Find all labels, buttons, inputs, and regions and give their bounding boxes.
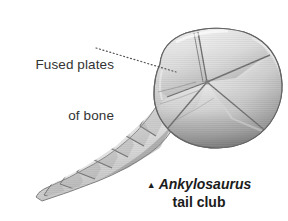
annotation-fused-plates: Fused plates of bone bbox=[6, 22, 114, 158]
annotation-line-2: of bone bbox=[6, 107, 114, 124]
figure-root: Fused plates of bone ▲Ankylosaurus tail … bbox=[0, 0, 288, 221]
caption-line-1: ▲Ankylosaurus bbox=[124, 176, 274, 194]
annotation-line-1: Fused plates bbox=[6, 56, 114, 73]
caption-line-2: tail club bbox=[124, 194, 274, 212]
triangle-marker-icon: ▲ bbox=[147, 180, 156, 190]
club-mass bbox=[144, 20, 288, 162]
caption-genus-name: Ankylosaurus bbox=[159, 176, 252, 192]
figure-caption: ▲Ankylosaurus tail club bbox=[124, 176, 274, 212]
